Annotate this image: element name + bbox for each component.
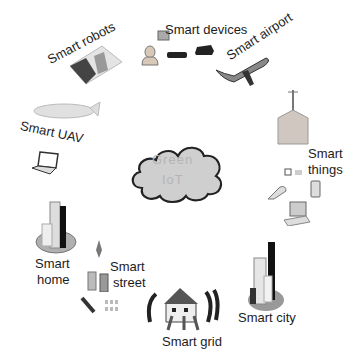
label-smart-home-line1: Smart [35, 256, 70, 271]
phone-icon [266, 183, 288, 201]
grid-house-trees-icon [144, 282, 222, 332]
label-smart-home-line2: home [37, 272, 70, 287]
street-vehicle-icon [80, 296, 96, 314]
user-icon [140, 44, 160, 66]
cloud-label-line2: IoT [162, 172, 184, 187]
label-smart-things-line2: things [308, 162, 343, 177]
label-smart-street-line1: Smart [110, 259, 145, 274]
computer-icon [282, 200, 312, 226]
street-buildings-icon [86, 270, 112, 292]
airplane-icon [214, 52, 276, 90]
city-buildings-icon [246, 240, 286, 312]
street-signs-icon [104, 298, 120, 314]
laptop-icon [30, 150, 62, 176]
car-icon [193, 43, 215, 57]
label-smart-things-line1: Smart [308, 146, 343, 161]
cloud-label-line1: Green [152, 152, 193, 167]
label-smart-street-line2: street [113, 275, 146, 290]
house-antenna-icon [276, 88, 310, 146]
home-building-icon [34, 198, 80, 254]
small-device-icon [284, 168, 304, 176]
gamepad-icon [166, 50, 188, 60]
green-iot-cloud [128, 136, 228, 206]
label-smart-city: Smart city [238, 310, 296, 325]
street-lamp-icon [94, 238, 104, 260]
label-smart-grid: Smart grid [162, 334, 222, 349]
label-smart-devices: Smart devices [165, 22, 247, 37]
mobile-phone-icon [310, 178, 322, 198]
